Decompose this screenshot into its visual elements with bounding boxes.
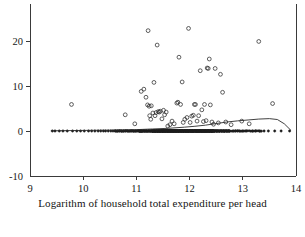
y-tick-label: 20 [13,36,24,47]
smoothed-trend-line [51,119,290,131]
data-point [70,103,74,107]
data-point [257,40,261,44]
x-tick-label: 10 [78,183,89,194]
data-point [212,130,214,132]
x-tick-label: 13 [238,183,249,194]
data-point [180,80,184,84]
data-point [274,130,276,132]
data-point [197,114,201,118]
y-tick-label: 10 [13,81,24,92]
data-point [155,43,159,47]
x-axis-label: Logarithm of household total expenditure… [0,197,305,209]
data-point [149,117,153,121]
axis-frame [30,4,296,176]
x-tick-label: 9 [27,183,32,194]
data-point [142,87,146,91]
scatter-plot-figure: -100102091011121314 Logarithm of househo… [0,0,305,237]
data-point [141,130,143,132]
data-point [203,103,207,107]
data-point [144,95,148,99]
data-point [177,55,181,59]
data-point [198,69,202,73]
y-tick-label: 0 [18,126,23,137]
data-point [152,81,156,85]
data-point [148,114,152,118]
scatter-points [51,27,291,133]
data-point [213,67,217,71]
data-point [221,90,225,94]
data-point [123,113,127,117]
axis-tick-labels: -100102091011121314 [9,36,302,194]
data-point [208,103,212,107]
data-point [240,119,244,123]
data-point [260,130,262,132]
y-tick-label: -10 [9,171,23,182]
axis-ticks [26,41,243,180]
data-point [146,29,150,33]
data-point [207,57,211,61]
data-point [133,122,137,126]
data-point [160,117,164,121]
data-point [263,130,265,132]
data-point [179,103,183,107]
data-point [219,72,223,76]
data-point [200,108,204,112]
data-point [172,122,176,126]
data-point [247,122,251,126]
data-point [229,123,233,127]
data-point [271,102,275,106]
data-point [280,130,282,132]
x-tick-label: 12 [184,183,195,194]
x-tick-label: 11 [131,183,141,194]
data-point [267,130,269,132]
data-point [187,27,191,31]
data-point [188,121,192,125]
trend-line-path [51,119,290,131]
data-point [195,119,199,123]
x-tick-label: 14 [291,183,302,194]
